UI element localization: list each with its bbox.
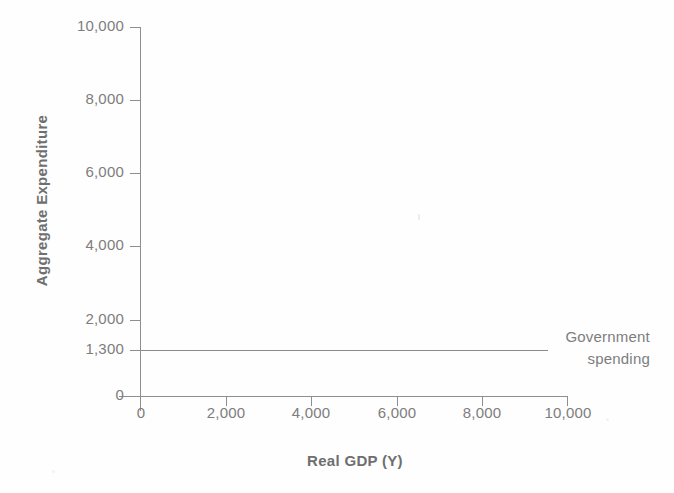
y-axis-title: Aggregate Expenditure (33, 56, 50, 346)
y-tick-4000 (130, 246, 141, 247)
x-tick-label-2000-wrap: 2,000 (186, 404, 266, 422)
y-tick-0 (130, 396, 152, 397)
y-axis-line (140, 27, 141, 411)
y-tick-label-6000: 6,000 (0, 163, 124, 180)
x-tick-label-6000: 6,000 (378, 404, 417, 421)
scan-speckle (418, 214, 420, 220)
x-tick-label-4000-wrap: 4,000 (271, 404, 351, 422)
x-tick-label-10000-wrap: 10,000 (528, 404, 608, 422)
y-tick-1300 (130, 350, 141, 351)
y-tick-label-2000: 2,000 (0, 310, 124, 327)
x-tick-label-8000-wrap: 8,000 (442, 404, 522, 422)
y-tick-label-10000: 10,000 (0, 17, 124, 34)
chart-figure: 10,000 8,000 6,000 4,000 2,000 1,300 0 0… (0, 0, 674, 493)
x-tick-label-4000: 4,000 (292, 404, 331, 421)
y-tick-label-4000: 4,000 (0, 236, 124, 253)
x-axis-line (119, 396, 568, 397)
y-axis-tick-10000 (130, 27, 141, 28)
y-tick-2000 (130, 320, 141, 321)
x-axis-title: Real GDP (Y) (235, 452, 475, 469)
y-tick-6000 (130, 173, 141, 174)
y-tick-label-0: 0 (0, 386, 124, 403)
annotation-line-1: Government (450, 326, 650, 348)
x-tick-label-10000: 10,000 (544, 404, 591, 421)
x-tick-label-6000-wrap: 6,000 (357, 404, 437, 422)
scan-speckle (52, 470, 55, 473)
annotation-line-2: spending (450, 348, 650, 370)
government-spending-annotation: Government spending (450, 326, 650, 370)
x-tick-label-8000: 8,000 (463, 404, 502, 421)
x-tick-label-2000: 2,000 (207, 404, 246, 421)
y-tick-label-8000: 8,000 (0, 90, 124, 107)
y-tick-8000 (130, 100, 141, 101)
x-tick-label-0-wrap: 0 (101, 404, 181, 422)
x-tick-label-0: 0 (137, 404, 146, 421)
y-tick-label-1300: 1,300 (0, 340, 124, 357)
